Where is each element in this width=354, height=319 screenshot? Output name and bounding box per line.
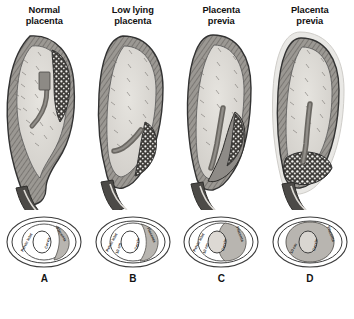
panel-c-uterus-illustration (177, 30, 265, 210)
panel-a-title: Normal placenta (26, 5, 63, 28)
panel-d: Placenta previa (266, 0, 354, 319)
panel-d-title: Placenta previa (291, 5, 328, 28)
placenta-position-figure: Normal placenta (0, 0, 354, 319)
panel-c-letter: C (218, 273, 225, 284)
panel-a: Normal placenta (0, 0, 89, 319)
panel-a-uterus-illustration (0, 30, 88, 210)
panel-b-uterus-illustration (89, 30, 177, 210)
panel-a-letter: A (41, 273, 48, 284)
panel-b-title: Low lying placenta (112, 5, 154, 28)
membrane-band (39, 72, 50, 90)
panel-b-pelvis-illustration: Pelvic inlet 10 cm Cervix Placenta (93, 214, 173, 270)
panel-c-title: Placenta previa (203, 5, 240, 28)
panel-c: Placenta previa (177, 0, 266, 319)
panel-d-uterus-illustration (266, 30, 354, 210)
panel-a-pelvis-illustration: Pelvic inlet Cervix Placenta (4, 214, 84, 270)
panel-b: Low lying placenta (89, 0, 178, 319)
panel-c-pelvis-illustration: Pelvic inlet 10 cm Cervix Placenta (181, 214, 261, 270)
panel-d-letter: D (306, 273, 313, 284)
panel-row: Normal placenta (0, 0, 354, 319)
panel-b-letter: B (129, 273, 136, 284)
panel-d-pelvis-illustration: 10 cm Cervix Placenta (270, 214, 350, 270)
placenta (284, 152, 332, 185)
